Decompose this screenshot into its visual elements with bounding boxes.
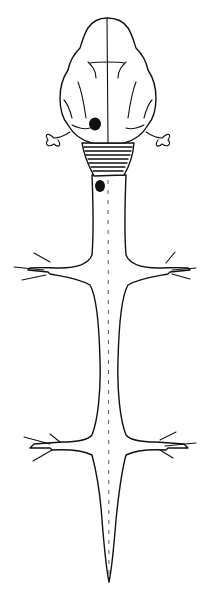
forelimb-nerves-right	[166, 252, 196, 279]
left-sensory-organ	[46, 132, 70, 146]
lesion-spinal-cord	[95, 180, 105, 192]
illustration	[0, 0, 206, 593]
right-sensory-organ	[146, 132, 170, 146]
hindbrain-hatching	[84, 147, 132, 171]
forelimb-nerves-left	[14, 253, 50, 280]
lesion-cerebrum	[89, 118, 101, 131]
brain-spinal-cord-drawing	[0, 0, 206, 593]
